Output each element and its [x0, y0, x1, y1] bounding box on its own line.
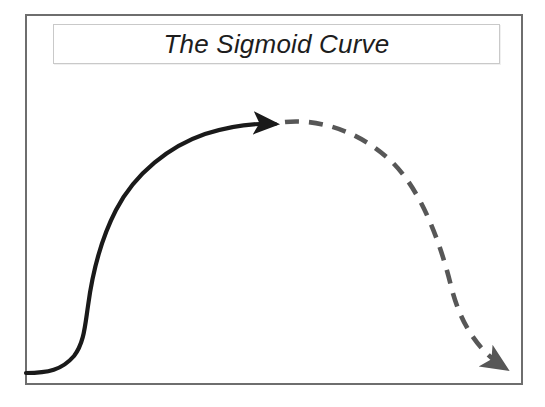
- page-title: The Sigmoid Curve: [164, 31, 390, 57]
- title-plate: The Sigmoid Curve: [53, 24, 500, 64]
- diagram-frame: [25, 14, 523, 385]
- figure-root: The Sigmoid Curve: [0, 0, 545, 407]
